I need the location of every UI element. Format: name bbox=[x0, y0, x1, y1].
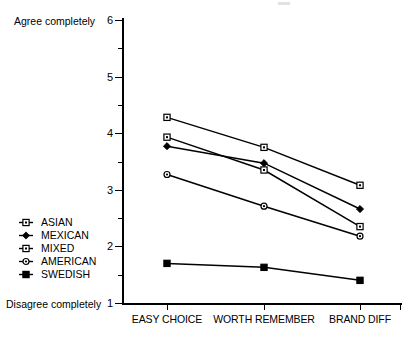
legend-label-american: AMERICAN bbox=[38, 256, 96, 267]
y-minor-tick bbox=[118, 105, 122, 106]
marker-filled-square bbox=[23, 271, 29, 277]
x-tick-1 bbox=[264, 303, 265, 310]
x-tick-label-brand-diff: BRAND DIFF bbox=[329, 314, 391, 325]
chart-page: Agree completely Disagree completely EAS… bbox=[0, 0, 420, 343]
legend-marker-open-square-icon bbox=[18, 242, 38, 255]
marker-open-square bbox=[23, 219, 29, 225]
y-tick-5 bbox=[115, 77, 122, 78]
y-axis-top-anchor-label: Agree completely bbox=[14, 16, 95, 27]
legend: ASIANMEXICANMIXEDAMERICANSWEDISH bbox=[18, 216, 116, 281]
y-minor-tick bbox=[118, 218, 122, 219]
legend-label-mexican: MEXICAN bbox=[38, 230, 89, 241]
legend-label-asian: ASIAN bbox=[38, 217, 73, 228]
marker-filled-diamond bbox=[22, 232, 29, 239]
legend-item-american[interactable]: AMERICAN bbox=[18, 255, 116, 268]
y-tick-1 bbox=[115, 303, 122, 304]
y-minor-tick bbox=[118, 275, 122, 276]
y-tick-label-3: 3 bbox=[107, 184, 113, 195]
y-minor-tick bbox=[118, 162, 122, 163]
marker-open-square bbox=[23, 245, 29, 251]
x-axis-line: EASY CHOICEWORTH REMEMBERBRAND DIFF bbox=[122, 303, 402, 305]
y-tick-label-5: 5 bbox=[107, 71, 113, 82]
y-tick-label-4: 4 bbox=[107, 128, 113, 139]
x-tick-0 bbox=[167, 303, 168, 310]
plot-area: 123456 bbox=[122, 20, 400, 303]
legend-item-asian[interactable]: ASIAN bbox=[18, 216, 116, 229]
y-axis-bottom-anchor-label: Disagree completely bbox=[6, 299, 101, 310]
legend-label-mixed: MIXED bbox=[38, 243, 74, 254]
x-axis-end-tick bbox=[400, 303, 401, 310]
y-tick-4 bbox=[115, 133, 122, 134]
legend-marker-filled-square-icon bbox=[18, 268, 38, 281]
legend-marker-open-circle-icon bbox=[18, 255, 38, 268]
legend-item-swedish[interactable]: SWEDISH bbox=[18, 268, 116, 281]
legend-marker-open-square-icon bbox=[18, 216, 38, 229]
legend-item-mixed[interactable]: MIXED bbox=[18, 242, 116, 255]
y-tick-3 bbox=[115, 190, 122, 191]
legend-label-swedish: SWEDISH bbox=[38, 269, 90, 280]
y-tick-label-1: 1 bbox=[107, 298, 113, 309]
x-tick-label-worth-remember: WORTH REMEMBER bbox=[213, 314, 315, 325]
legend-marker-filled-diamond-icon bbox=[18, 229, 38, 242]
y-tick-6 bbox=[115, 20, 122, 21]
y-tick-label-6: 6 bbox=[107, 15, 113, 26]
x-tick-2 bbox=[360, 303, 361, 310]
x-tick-label-easy-choice: EASY CHOICE bbox=[132, 314, 202, 325]
y-tick-2 bbox=[115, 246, 122, 247]
y-minor-tick bbox=[118, 48, 122, 49]
marker-open-circle bbox=[23, 259, 29, 265]
legend-item-mexican[interactable]: MEXICAN bbox=[18, 229, 116, 242]
scan-artifact bbox=[278, 2, 290, 5]
